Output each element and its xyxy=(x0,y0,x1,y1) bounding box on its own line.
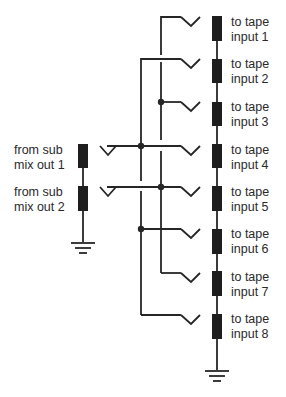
dest-label-input4: to tape input 4 xyxy=(231,143,269,173)
dest-label-line2: input 5 xyxy=(231,200,269,215)
dest-label-line2: input 2 xyxy=(231,72,269,87)
dest-label-input1: to tape input 1 xyxy=(231,15,269,45)
dest-label-line1: to tape xyxy=(231,270,269,285)
dest-label-line2: input 4 xyxy=(231,158,269,173)
dest-label-line2: input 1 xyxy=(231,30,269,45)
ground-icon-right xyxy=(205,371,229,381)
dest-label-line1: to tape xyxy=(231,312,269,327)
source-label-sub1: from sub mix out 1 xyxy=(14,143,65,173)
jack-icons-inputs xyxy=(100,146,116,196)
dest-label-line2: input 8 xyxy=(231,327,269,342)
dest-label-line1: to tape xyxy=(231,100,269,115)
dest-label-line2: input 7 xyxy=(231,285,269,300)
dest-label-input5: to tape input 5 xyxy=(231,185,269,215)
dest-label-line1: to tape xyxy=(231,185,269,200)
ground-icon-left xyxy=(71,243,95,253)
source-label-line1: from sub xyxy=(14,143,65,158)
dest-label-line1: to tape xyxy=(231,227,269,242)
bus2-wire-top xyxy=(161,17,181,55)
source-label-line1: from sub xyxy=(14,185,65,200)
dest-label-input6: to tape input 6 xyxy=(231,227,269,257)
source-label-sub2: from sub mix out 2 xyxy=(14,185,65,215)
dest-label-line1: to tape xyxy=(231,57,269,72)
dest-label-line2: input 3 xyxy=(231,115,269,130)
source-label-line2: mix out 2 xyxy=(14,200,65,215)
dest-label-line1: to tape xyxy=(231,15,269,30)
dest-label-line1: to tape xyxy=(231,143,269,158)
dest-label-input2: to tape input 2 xyxy=(231,57,269,87)
dest-label-line2: input 6 xyxy=(231,242,269,257)
dest-label-input7: to tape input 7 xyxy=(231,270,269,300)
source-label-line2: mix out 1 xyxy=(14,158,65,173)
dest-label-input8: to tape input 8 xyxy=(231,312,269,342)
dest-label-input3: to tape input 3 xyxy=(231,100,269,130)
jack-icons-outputs xyxy=(181,17,200,324)
